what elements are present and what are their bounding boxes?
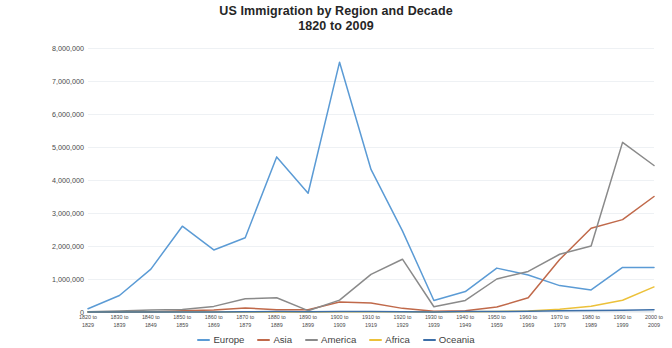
y-axis-tick-label: 1,000,000 — [4, 275, 84, 284]
series-line-africa — [88, 287, 654, 312]
x-axis: 1820 to18291830 to18391840 to18491850 to… — [88, 314, 654, 334]
legend-item-europe[interactable]: Europe — [197, 334, 244, 345]
legend-swatch-icon — [369, 339, 382, 341]
chart-title: US Immigration by Region and Decade 1820… — [0, 4, 672, 34]
legend-label: America — [321, 334, 356, 345]
legend-swatch-icon — [197, 339, 210, 341]
legend-label: Africa — [385, 334, 410, 345]
chart-subtitle: 1820 to 2009 — [0, 19, 672, 34]
y-axis-tick-label: 2,000,000 — [4, 242, 84, 251]
plot-area — [88, 48, 654, 312]
series-line-asia — [88, 197, 654, 313]
y-axis-tick-label: 6,000,000 — [4, 110, 84, 119]
y-axis: 01,000,0002,000,0003,000,0004,000,0005,0… — [0, 48, 84, 312]
series-line-europe — [88, 62, 654, 309]
legend-item-africa[interactable]: Africa — [369, 334, 410, 345]
y-axis-tick-label: 8,000,000 — [4, 44, 84, 53]
legend-label: Oceania — [439, 334, 475, 345]
legend-swatch-icon — [305, 339, 318, 341]
x-axis-tick-line: 2009 — [632, 322, 672, 330]
y-axis-tick-label: 7,000,000 — [4, 77, 84, 86]
legend-label: Europe — [213, 334, 244, 345]
chart-legend: EuropeAsiaAmericaAfricaOceania — [0, 334, 672, 345]
y-axis-tick-label: 4,000,000 — [4, 176, 84, 185]
x-axis-tick-label: 2000 to2009 — [632, 314, 672, 329]
legend-swatch-icon — [423, 339, 436, 341]
legend-item-america[interactable]: America — [305, 334, 356, 345]
y-axis-tick-label: 5,000,000 — [4, 143, 84, 152]
legend-swatch-icon — [257, 339, 270, 341]
legend-label: Asia — [273, 334, 292, 345]
legend-item-oceania[interactable]: Oceania — [423, 334, 475, 345]
series-lines — [88, 48, 654, 312]
x-axis-tick-line: 2000 to — [632, 314, 672, 322]
y-axis-tick-label: 3,000,000 — [4, 209, 84, 218]
immigration-line-chart: US Immigration by Region and Decade 1820… — [0, 0, 672, 348]
legend-item-asia[interactable]: Asia — [257, 334, 292, 345]
chart-title-main: US Immigration by Region and Decade — [219, 4, 452, 18]
